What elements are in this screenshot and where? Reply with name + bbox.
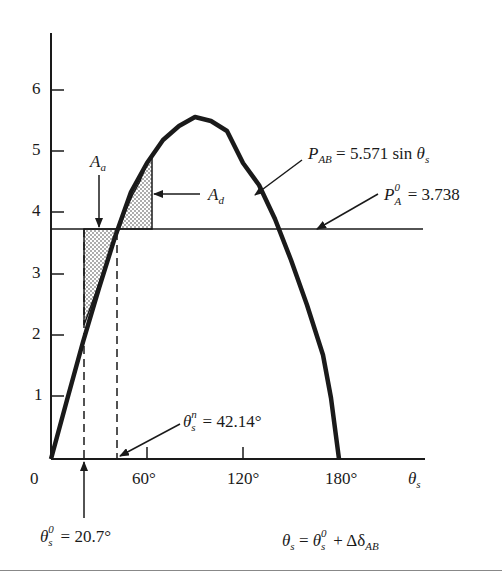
chart-canvas (0, 0, 502, 585)
pa0-label-arrow (317, 194, 378, 229)
pab-curve-label: PAB = 5.571 sin θs (308, 145, 429, 165)
x-tick-label-180: 180° (325, 470, 357, 487)
theta-equation-label: θs = θ0s + ΔδAB (282, 532, 379, 552)
pa0-line-label: P0A = 3.738 (384, 186, 460, 203)
area-d-label: Ad (208, 186, 224, 206)
x-ticks (147, 447, 243, 459)
bottom-rule (0, 570, 502, 571)
y-tick-label-6: 6 (32, 80, 41, 97)
y-tick-label-3: 3 (32, 264, 41, 281)
area-a-label: Aa (90, 153, 106, 173)
origin-label: 0 (30, 470, 39, 487)
thetan-arrow (120, 424, 180, 456)
y-tick-label-5: 5 (32, 141, 41, 158)
y-ticks (51, 90, 64, 396)
x-tick-label-60: 60° (132, 470, 156, 487)
x-tick-label-120: 120° (227, 470, 259, 487)
x-axis-label: θs (408, 470, 421, 490)
theta-0-label: θ0s = 20.7° (40, 528, 111, 545)
y-tick-label-4: 4 (32, 202, 41, 219)
y-tick-label-2: 2 (32, 325, 41, 342)
y-tick-label-1: 1 (34, 386, 43, 403)
theta-n-label: θns = 42.14° (183, 413, 262, 430)
pab-label-arrow (255, 160, 302, 195)
